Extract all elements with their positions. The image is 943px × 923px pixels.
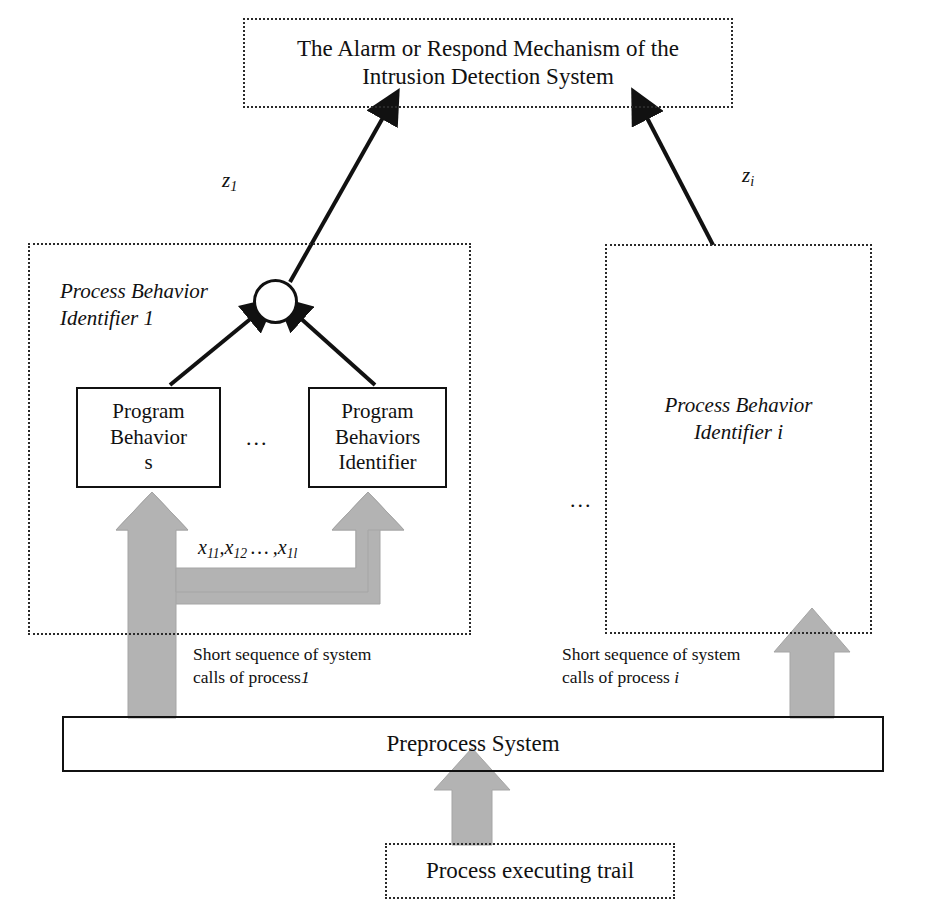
left-panel-ellipsis: ... (246, 425, 269, 451)
fv-mid-dots: … (247, 536, 273, 558)
zi-label: zi (742, 163, 754, 190)
title-line-2: Intrusion Detection System (297, 63, 679, 91)
z1-sub: 1 (230, 178, 237, 194)
pbi-i-label-line-2: Identifier i (646, 419, 831, 446)
pbi1-label-line-2: Identifier 1 (60, 305, 208, 332)
fv-x3-sub: 1l (287, 546, 298, 561)
preprocess-system-label: Preprocess System (386, 730, 559, 758)
arrow-zi (645, 114, 713, 245)
preprocess-system-box: Preprocess System (62, 716, 884, 772)
pb-identifier-line-1: Program (335, 399, 420, 425)
right-input-caption: Short sequence of system calls of proces… (562, 643, 740, 689)
left-caption-index: 1 (301, 667, 310, 687)
fv-x2-sub: 12 (233, 546, 247, 561)
pbi1-label-line-1: Process Behavior (60, 278, 208, 305)
pb-identifier-line-2: Behaviors (335, 425, 420, 451)
zi-base: z (742, 163, 750, 187)
right-caption-line-1: Short sequence of system (562, 643, 740, 666)
right-caption-text: calls of process (562, 667, 670, 687)
left-caption-line-2: calls of process1 (193, 666, 371, 689)
fv-x1-base: x (198, 536, 207, 558)
program-behaviors-identifier-box: Program Behaviors Identifier (308, 387, 447, 488)
program-behaviors-line-2: Behavior (110, 425, 187, 451)
process-executing-trail-box: Process executing trail (385, 843, 675, 899)
zi-sub: i (750, 173, 754, 189)
process-behavior-identifier-i-label: Process Behavior Identifier i (646, 392, 831, 447)
program-behaviors-line-3: s (110, 450, 187, 476)
program-behaviors-box: Program Behavior s (76, 387, 221, 488)
left-caption-text: calls of process (193, 667, 301, 687)
right-panel-ellipsis: ... (570, 487, 593, 513)
fv-x3-base: x (278, 536, 287, 558)
diagram-canvas: The Alarm or Respond Mechanism of the In… (0, 0, 943, 923)
combiner-node (253, 279, 298, 324)
fv-x1-sub: 11 (207, 546, 220, 561)
z1-base: z (222, 168, 230, 192)
right-caption-line-2: calls of process i (562, 666, 740, 689)
pb-identifier-line-3: Identifier (335, 450, 420, 476)
process-behavior-identifier-1-label: Process Behavior Identifier 1 (60, 278, 208, 333)
right-caption-index: i (674, 667, 679, 687)
left-input-caption: Short sequence of system calls of proces… (193, 643, 371, 689)
title-line-1: The Alarm or Respond Mechanism of the (297, 35, 679, 63)
program-behaviors-line-1: Program (110, 399, 187, 425)
process-executing-trail-label: Process executing trail (426, 857, 634, 885)
feature-vector-label: x11,x12…,x1l (198, 536, 297, 562)
pbi-i-label-line-1: Process Behavior (646, 392, 831, 419)
left-caption-line-1: Short sequence of system (193, 643, 371, 666)
z1-label: z1 (222, 168, 237, 195)
alarm-respond-mechanism-box: The Alarm or Respond Mechanism of the In… (243, 18, 733, 108)
